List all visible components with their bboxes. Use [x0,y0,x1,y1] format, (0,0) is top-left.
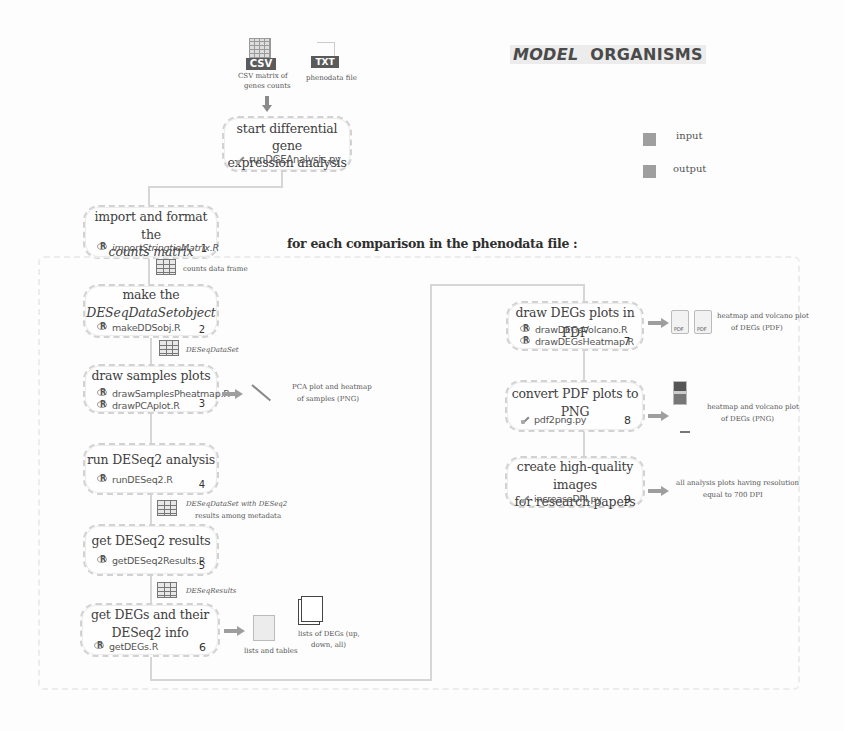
connector [148,186,150,206]
txt-label: phenodata file [306,72,357,84]
pdf-heatmap-icon: PDF [671,310,689,334]
connector [150,657,152,679]
script-drawPCAplot[interactable]: drawPCAplot.R [97,400,180,411]
step-convert-pdf-png[interactable]: convert PDF plots to PNG pdf2png.py 8 [505,380,645,432]
step-import-counts[interactable]: import and format the counts matrix impo… [83,205,219,259]
step-number: 6 [199,641,206,654]
step-title: create high-quality images [507,458,643,494]
data-dds-results-line2: results among metadata [195,510,281,522]
txt-badge: TXT [311,56,339,68]
connector [148,186,283,188]
step-title: import and format the [85,208,217,244]
script-increaseDPI[interactable]: increaseDPI.py [521,493,602,504]
step-title: DESeqDataSetobject [85,304,217,322]
script-pdf2png[interactable]: pdf2png.py [521,414,586,425]
r-icon [520,325,531,334]
legend-input-swatch [643,133,656,146]
output-pdf-plots-line2: of DEGs (PDF) [731,322,783,334]
script-drawDEGsVolcano[interactable]: drawDEGsVolcano.R [520,324,627,335]
script-getDESeq2Results[interactable]: getDESeq2Results.R [97,555,205,566]
connector [150,576,152,604]
python-icon [236,155,245,164]
step-get-deseq2-results[interactable]: get DESeq2 results getDESeq2Results.R 5 [83,524,219,576]
connector [148,259,150,284]
lists-tables-icon [253,615,275,641]
step-draw-samples-plots[interactable]: draw samples plots drawSamplesPheatmap.R… [83,364,219,414]
step-draw-degs-plots-pdf[interactable]: draw DEGs plots in PDF drawDEGsVolcano.R… [506,301,644,351]
script-getDEGs[interactable]: getDEGs.R [94,641,158,652]
connector [150,338,152,364]
r-icon [94,642,105,651]
step-make-dds[interactable]: make the DESeqDataSetobject makeDDSobj.R… [83,284,219,338]
script-runDESeq2[interactable]: runDESeq2.R [97,474,173,485]
data-dds-results-line1: DESeqDataSet with DESeq2 [186,498,287,510]
step-number: 2 [199,324,205,335]
title-italic: MODEL [513,45,578,64]
title-rest: ORGANISMS [590,45,702,64]
txt-file-icon [317,42,335,56]
step-start-dge[interactable]: start differential gene expression analy… [222,116,352,172]
csv-file-icon [249,38,271,58]
step-create-hq-images[interactable]: create high-quality images for research … [505,456,645,508]
data-dds: DESeqDataSet [186,344,239,356]
output-samples-plots-line1: PCA plot and heatmap [292,381,372,393]
output-hq-line2: equal to 700 DPI [703,489,763,501]
r-icon [97,323,108,332]
connector [281,172,283,186]
legend-output-swatch [643,165,656,178]
diagram-title: MODEL ORGANISMS [510,45,706,64]
script-makeDDSobj[interactable]: makeDDSobj.R [97,322,180,333]
step-number: 5 [199,560,205,571]
output-pdf-plots-line1: heatmap and volcano plot [717,310,809,322]
output-arrow-icon [648,319,670,327]
deg-lists-icon [301,596,323,622]
table-icon [159,340,179,356]
connector [583,432,585,456]
step-number: 1 [201,243,207,254]
table-icon [156,259,176,275]
output-arrow-icon [648,412,670,420]
script-drawSamplesPheatmap[interactable]: drawSamplesPheatmap.R [97,388,230,399]
step-title: get DEGs and their [82,606,218,624]
step-run-deseq2[interactable]: run DESeq2 analysis runDESeq2.R 4 [83,443,219,495]
r-icon [97,401,108,410]
step-title: DESeq2 info [82,624,218,641]
png-volcano-thumbnail [680,425,690,433]
python-icon [521,494,530,503]
python-icon [521,415,530,424]
table-icon [157,500,177,516]
output-png-plots-line2: of DEGs (PNG) [721,413,774,425]
r-icon [97,243,108,252]
png-heatmap-thumbnail [673,381,687,405]
connector [583,284,585,302]
step-number: 4 [199,479,205,490]
connector [430,284,432,681]
output-arrow-icon [224,627,246,635]
connector [150,679,432,681]
connector [150,495,152,525]
data-counts-df: counts data frame [183,263,248,275]
connector [583,351,585,381]
output-arrow-icon [222,390,244,398]
step-number: 8 [624,414,631,427]
r-icon [97,556,108,565]
output-hq-line1: all analysis plots having resolution [676,477,799,489]
loop-label: for each comparison in the phenodata fil… [287,236,577,251]
output-samples-plots-line2: of samples (PNG) [297,393,359,405]
step-number: 3 [199,398,205,409]
down-arrow-icon [262,96,272,112]
script-drawDEGsHeatmap[interactable]: drawDEGsHeatmap.R [520,336,634,347]
table-icon [157,582,177,598]
script-runDGEAnalysis[interactable]: runDGEAnalysis.py [236,154,341,165]
connector [150,414,152,444]
step-get-degs[interactable]: get DEGs and their DESeq2 info getDEGs.R… [80,603,220,657]
output-lists-tables: lists and tables [244,645,298,657]
step-title: start differential gene [224,120,350,154]
step-number: 9 [624,493,631,506]
output-png-plots-line1: heatmap and volcano plot [707,401,799,413]
csv-label-line2: genes counts [244,80,291,92]
csv-badge: CSV [246,58,276,70]
output-deg-lists-line2: down, all) [311,639,346,651]
data-deseq-results: DESeqResults [186,585,236,597]
step-title: get DESeq2 results [85,532,217,550]
